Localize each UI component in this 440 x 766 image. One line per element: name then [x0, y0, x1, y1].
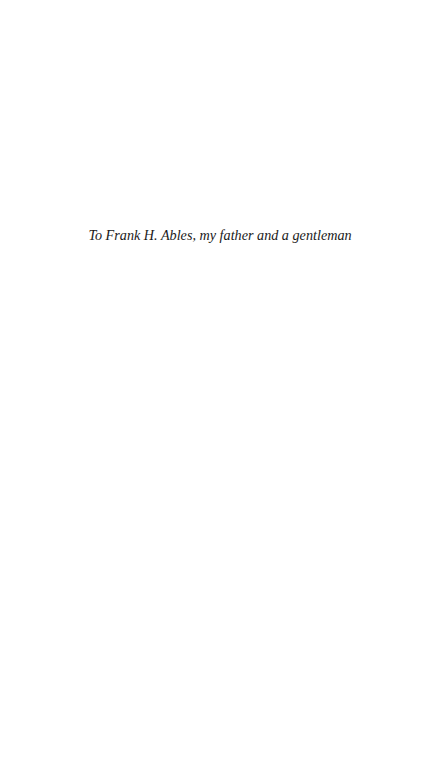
dedication-text: To Frank H. Ables, my father and a gentl… — [0, 226, 440, 244]
book-page: To Frank H. Ables, my father and a gentl… — [0, 0, 440, 766]
